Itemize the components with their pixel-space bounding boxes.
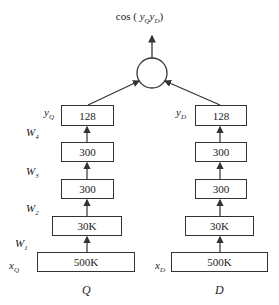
d-layer-500k: 500K: [171, 252, 268, 272]
q-layer-300-a: 300: [61, 179, 114, 199]
d-layer-30k: 30K: [185, 216, 254, 236]
q-layer-300-b: 300: [61, 142, 114, 162]
label-y-d: yD: [176, 106, 186, 121]
q-layer-30k: 30K: [52, 216, 122, 236]
label-y-q: yQ: [44, 106, 54, 121]
label-w2: W2: [26, 202, 39, 217]
q-layer-500k: 500K: [37, 252, 135, 272]
label-w1: W1: [15, 237, 28, 252]
d-layer-300-a: 300: [195, 179, 247, 199]
label-w4: W4: [26, 126, 39, 141]
d-layer-128: 128: [195, 105, 247, 126]
label-w3: W3: [26, 165, 39, 180]
similarity-node: [137, 58, 167, 88]
caption-d: D: [215, 283, 224, 298]
q-layer-128: 128: [61, 105, 114, 126]
label-x-d: xD: [155, 259, 165, 274]
label-x-q: xQ: [9, 259, 19, 274]
d-layer-300-b: 300: [195, 142, 247, 162]
caption-q: Q: [82, 283, 91, 298]
